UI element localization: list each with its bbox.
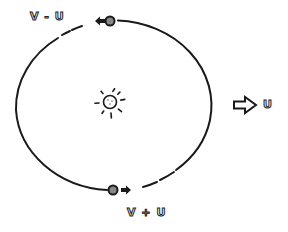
label-u: U bbox=[263, 99, 273, 111]
orbit-diagram bbox=[0, 0, 288, 232]
top-planet bbox=[106, 17, 115, 26]
bottom-planet bbox=[109, 186, 118, 195]
label-v-plus-u: V + U bbox=[127, 207, 166, 219]
hollow-arrow-right-icon bbox=[234, 97, 256, 113]
arrow-right-icon bbox=[121, 186, 131, 195]
label-v-minus-u: V - U bbox=[30, 11, 65, 23]
sun-icon bbox=[95, 88, 125, 117]
arrow-left-icon bbox=[95, 17, 105, 26]
